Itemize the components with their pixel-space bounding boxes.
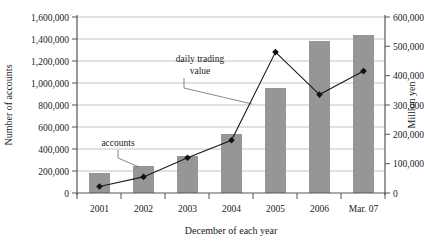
accounts-bars	[89, 35, 374, 193]
y-axis-left-title: Number of accounts	[3, 64, 14, 145]
x-tick-label: 2006	[310, 204, 329, 214]
y-tick-label: 1,400,000	[31, 35, 69, 45]
y-axis-left-ticklabels: 1,600,000 1,400,000 1,200,000 1,000,000 …	[31, 13, 69, 199]
annotation-daily-trading-value-line2: value	[190, 66, 211, 76]
accounts-bar-2001	[89, 173, 110, 193]
y-tick-label: 1,000,000	[31, 79, 69, 89]
x-axis-title: December of each year	[185, 225, 278, 236]
chart-figure: daily trading value accounts 1,600,000 1…	[0, 0, 424, 243]
y2-tick-label: 600,000	[393, 13, 424, 23]
y-axis-right-ticks	[385, 17, 390, 193]
x-tick-label: 2002	[134, 204, 153, 214]
x-axis-ticks	[77, 193, 385, 199]
y-tick-label: 200,000	[38, 167, 69, 177]
annotation-daily-trading-value-leader	[184, 78, 252, 104]
y-tick-label: 400,000	[38, 145, 69, 155]
x-tick-label: 2003	[178, 204, 197, 214]
x-tick-label: Mar. 07	[349, 204, 379, 214]
annotation-accounts-label: accounts	[101, 138, 135, 148]
chart-svg: daily trading value accounts 1,600,000 1…	[0, 0, 424, 243]
x-axis-ticklabels: 2001 2002 2003 2004 2005 2006 Mar. 07	[90, 204, 379, 214]
annotation-daily-trading-value-line1: daily trading	[176, 54, 225, 64]
y2-tick-label: 500,000	[393, 42, 424, 52]
annotation-accounts-leader	[118, 150, 139, 167]
y-tick-label: 1,600,000	[31, 13, 69, 23]
y2-tick-label: 400,000	[393, 71, 424, 81]
y-tick-label: 0	[64, 189, 69, 199]
y-axis-right-title: Million yen	[406, 82, 417, 129]
accounts-bar-2005	[265, 88, 286, 193]
y2-tick-label: 100,000	[393, 159, 424, 169]
x-tick-label: 2005	[266, 204, 285, 214]
accounts-bar-mar-07	[353, 35, 374, 193]
y2-tick-label: 0	[393, 189, 398, 199]
x-tick-label: 2001	[90, 204, 109, 214]
y-tick-label: 600,000	[38, 123, 69, 133]
y-tick-label: 800,000	[38, 101, 69, 111]
y-tick-label: 1,200,000	[31, 57, 69, 67]
x-tick-label: 2004	[222, 204, 241, 214]
y-axis-left-ticks	[72, 17, 77, 193]
y2-tick-label: 200,000	[393, 130, 424, 140]
accounts-bar-2006	[309, 41, 330, 193]
